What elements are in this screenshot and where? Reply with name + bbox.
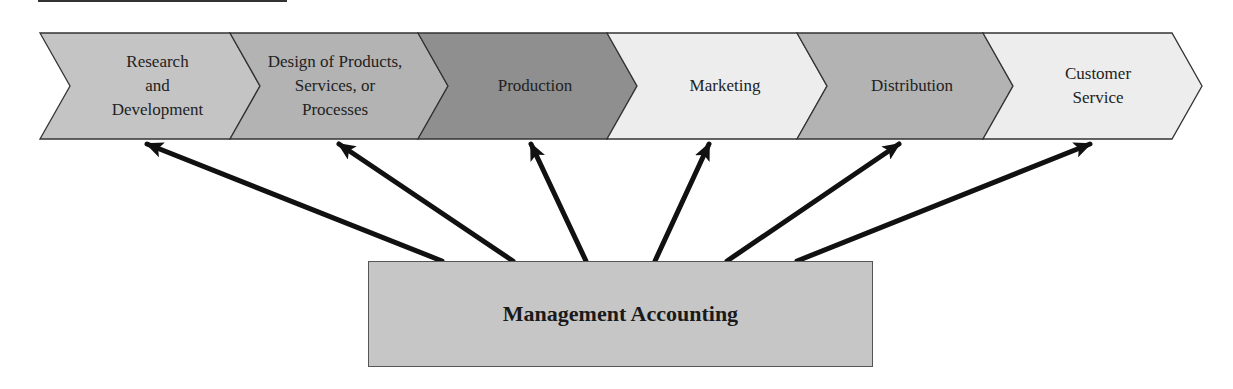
stage-chevron-design — [230, 33, 448, 139]
arrow-to-design — [339, 144, 513, 261]
stage-chevron-production — [418, 33, 637, 139]
management-accounting-box: Management Accounting — [368, 261, 873, 367]
arrow-to-distribution — [727, 144, 899, 261]
arrow-to-production — [531, 144, 586, 261]
arrow-to-research — [147, 144, 442, 261]
stage-chevron-research — [40, 33, 260, 139]
management-accounting-label: Management Accounting — [503, 301, 738, 327]
stage-chevron-marketing — [607, 33, 827, 139]
arrow-to-customer-service — [797, 144, 1090, 261]
stage-chevron-distribution — [797, 33, 1013, 139]
stage-chevron-customer-service — [983, 33, 1202, 139]
arrow-to-marketing — [655, 144, 709, 261]
